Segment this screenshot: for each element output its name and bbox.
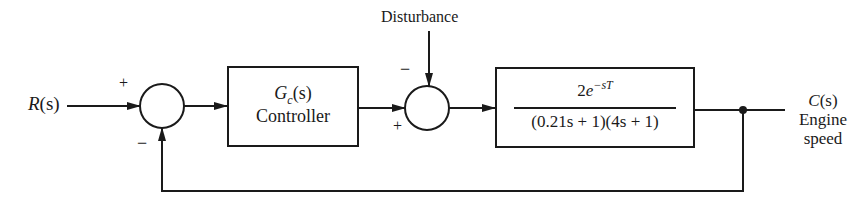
output-signal: C(s)	[792, 91, 854, 110]
controller-block: Gc(s) Controller	[227, 66, 359, 147]
input-label-arg: (s)	[40, 93, 60, 114]
output-name-line2: speed	[792, 129, 854, 148]
plant-numerator: 2e−sT	[497, 78, 693, 101]
plant-numerator-exponent: −sT	[593, 78, 612, 92]
controller-tf-symbol: G	[274, 83, 287, 103]
summing-junction-1	[140, 84, 184, 128]
output-label-arg: (s)	[820, 91, 838, 110]
disturbance-label: Disturbance	[381, 8, 458, 26]
controller-transfer-function: Gc(s)	[229, 83, 357, 108]
sum1-plus-sign: +	[119, 74, 128, 92]
controller-tf-arg: (s)	[293, 83, 312, 103]
sum2-minus-sign: −	[400, 59, 410, 80]
plant-denominator: (0.21s + 1)(4s + 1)	[497, 112, 693, 132]
input-label: R(s)	[28, 93, 60, 115]
output-name-line1: Engine	[792, 110, 854, 129]
output-label: C(s) Engine speed	[792, 91, 854, 148]
controller-name: Controller	[229, 106, 357, 127]
sum1-minus-sign: −	[137, 133, 147, 154]
output-label-var: C	[808, 91, 819, 110]
sum2-plus-sign: +	[393, 117, 402, 135]
plant-numerator-coef: 2	[577, 81, 586, 100]
diagram-connections	[0, 0, 868, 201]
block-diagram: R(s) + − Gc(s) Controller Disturbance − …	[0, 0, 868, 201]
plant-block: 2e−sT (0.21s + 1)(4s + 1)	[495, 67, 695, 148]
fraction-bar	[514, 107, 676, 109]
summing-junction-2	[405, 86, 449, 130]
input-label-var: R	[28, 93, 40, 114]
